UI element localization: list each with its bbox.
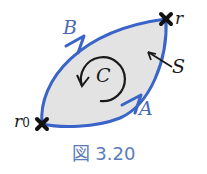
label-s: S xyxy=(172,57,185,76)
figure-caption: 図 3.20 xyxy=(0,145,207,163)
label-r0-subscript: 0 xyxy=(22,116,30,130)
label-c: C xyxy=(96,66,111,85)
label-b: B xyxy=(63,18,77,37)
label-r0-base: r xyxy=(14,111,22,131)
label-r0: r0 xyxy=(14,113,30,130)
label-a: A xyxy=(139,99,153,118)
label-r: r xyxy=(175,10,183,27)
